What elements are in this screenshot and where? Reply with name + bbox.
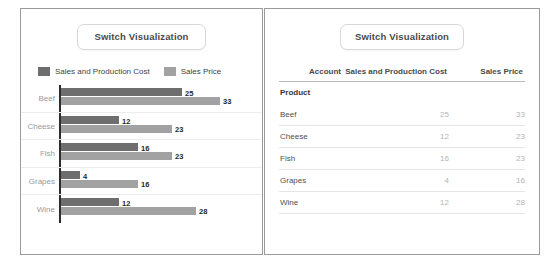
cell-cost: 12 [343,126,449,148]
chart-panel: Switch Visualization Sales and Productio… [20,8,263,255]
switch-visualization-button-left[interactable]: Switch Visualization [77,24,205,50]
chart-row: Wine 12 28 [21,195,262,223]
bar-price[interactable]: 23 [61,125,172,133]
cell-product: Wine [279,192,343,214]
legend-item-price[interactable]: Sales Price [164,67,221,76]
dashboard-root: Switch Visualization Sales and Productio… [0,0,547,267]
bar-value-price: 23 [175,152,183,161]
cell-price: 33 [449,104,525,126]
table-row[interactable]: Beef 25 33 [279,104,525,126]
table-group-row: Product [279,82,525,105]
table-header-row: Account Sales and Production Cost Sales … [279,67,525,82]
chart-row: Grapes 4 16 [21,168,262,196]
chart-category-label: Wine [21,205,55,214]
chart-bar-group: 25 33 [61,88,262,105]
cell-product: Cheese [279,126,343,148]
cell-price: 16 [449,170,525,192]
chart-row: Beef 25 33 [21,85,262,113]
column-header-price[interactable]: Sales Price [449,67,525,82]
bar-price[interactable]: 28 [61,207,196,215]
legend-label-price: Sales Price [181,67,221,76]
bar-chart: Beef 25 33 Cheese 12 [21,82,262,225]
group-cost-cell [343,82,449,105]
cell-product: Fish [279,148,343,170]
bar-price[interactable]: 33 [61,97,220,105]
data-table: Account Sales and Production Cost Sales … [279,67,525,214]
cell-cost: 16 [343,148,449,170]
group-price-cell [449,82,525,105]
bar-cost[interactable]: 4 [61,171,80,179]
table-row[interactable]: Cheese 12 23 [279,126,525,148]
cell-price: 23 [449,148,525,170]
chart-category-label: Cheese [21,121,55,130]
bar-price[interactable]: 23 [61,152,172,160]
cell-cost: 12 [343,192,449,214]
chart-bar-group: 12 23 [61,116,262,133]
group-label: Product [279,82,343,105]
bar-cost[interactable]: 12 [61,198,119,206]
table-row[interactable]: Wine 12 28 [279,192,525,214]
chart-row: Fish 16 23 [21,140,262,168]
cell-price: 23 [449,126,525,148]
table-switch-wrap: Switch Visualization [265,9,539,50]
bar-value-price: 28 [199,207,207,216]
bar-value-price: 23 [175,125,183,134]
chart-bar-group: 4 16 [61,171,262,188]
chart-category-label: Grapes [21,177,55,186]
bar-cost[interactable]: 25 [61,88,182,96]
chart-legend: Sales and Production Cost Sales Price [38,67,262,76]
chart-row: Cheese 12 23 [21,113,262,141]
cell-cost: 25 [343,104,449,126]
legend-swatch-light-icon [164,67,176,76]
switch-visualization-button-right[interactable]: Switch Visualization [340,24,464,50]
bar-value-price: 16 [141,180,149,189]
legend-item-cost[interactable]: Sales and Production Cost [38,67,150,76]
chart-rows: Beef 25 33 Cheese 12 [21,85,262,223]
table-row[interactable]: Grapes 4 16 [279,170,525,192]
table-panel: Switch Visualization Account Sales and P… [264,8,540,255]
chart-category-label: Beef [21,94,55,103]
cell-product: Grapes [279,170,343,192]
legend-label-cost: Sales and Production Cost [55,67,150,76]
chart-switch-wrap: Switch Visualization [21,9,262,50]
bar-value-price: 33 [223,97,231,106]
bar-price[interactable]: 16 [61,180,138,188]
chart-category-label: Fish [21,149,55,158]
cell-product: Beef [279,104,343,126]
bar-cost[interactable]: 16 [61,143,138,151]
column-header-cost[interactable]: Sales and Production Cost [343,67,449,82]
table-header: Account Sales and Production Cost Sales … [279,67,525,82]
cell-price: 28 [449,192,525,214]
column-header-account[interactable]: Account [279,67,343,82]
chart-bar-group: 12 28 [61,198,262,215]
table-row[interactable]: Fish 16 23 [279,148,525,170]
legend-swatch-dark-icon [38,67,50,76]
chart-bar-group: 16 23 [61,143,262,160]
bar-cost[interactable]: 12 [61,116,119,124]
cell-cost: 4 [343,170,449,192]
table-body: Product Beef 25 33 Cheese 12 23 Fish 16 [279,82,525,214]
